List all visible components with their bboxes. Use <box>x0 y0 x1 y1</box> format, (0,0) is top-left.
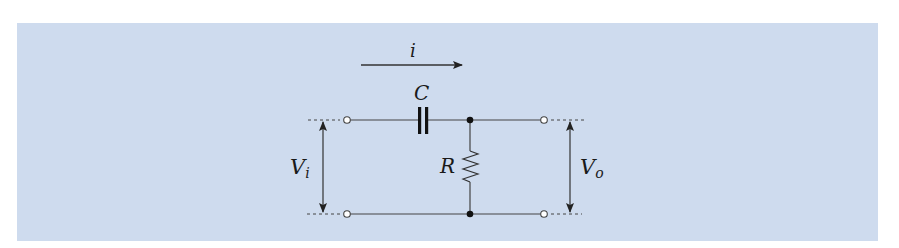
output-terminal-bottom <box>541 211 548 218</box>
resistor-label: R <box>439 154 455 178</box>
junction-node-top <box>467 117 474 124</box>
resistor-symbol <box>463 120 478 214</box>
rc-circuit-diagram: i C R Vi <box>0 0 899 248</box>
capacitor-symbol <box>418 107 428 134</box>
current-label: i <box>410 40 416 61</box>
output-terminal-top <box>541 117 548 124</box>
input-terminal-bottom <box>344 211 351 218</box>
input-voltage-label: Vi <box>290 155 310 181</box>
junction-node-bottom <box>467 211 474 218</box>
output-voltage-label: Vo <box>580 155 604 181</box>
input-terminal-top <box>344 117 351 124</box>
capacitor-label: C <box>414 81 429 105</box>
